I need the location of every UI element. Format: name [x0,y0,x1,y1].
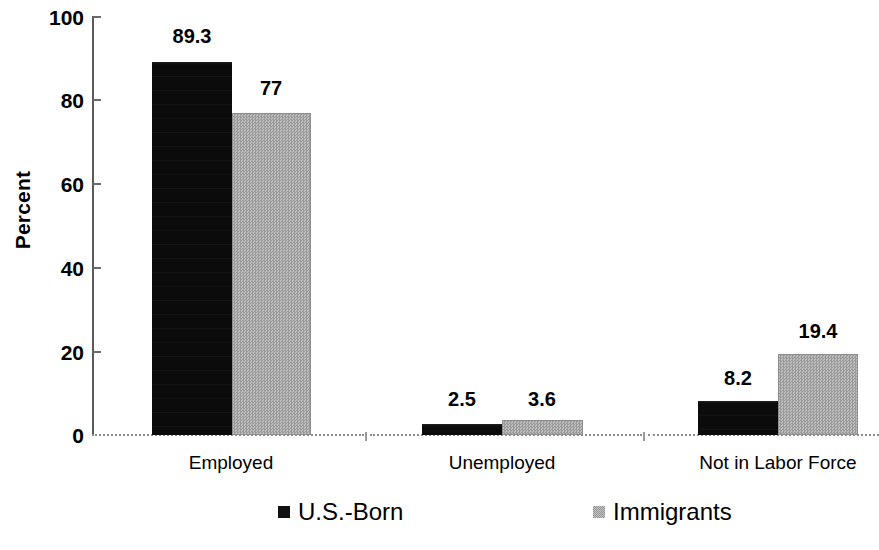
x-axis-tick-divider-2 [643,432,645,441]
y-tick-label-20: 20 [26,342,84,363]
chart-legend: U.S.-Born Immigrants [0,500,879,550]
y-tick-label-80: 80 [26,90,84,111]
y-tick-mark-20 [93,351,101,353]
bar-employed-immigrants [232,113,311,435]
y-tick-mark-100 [93,16,101,18]
x-category-label-not-in-labor-force: Not in Labor Force [668,452,879,474]
bar-unemployed-usborn [422,424,502,435]
y-tick-label-60: 60 [26,174,84,195]
y-tick-mark-80 [93,99,101,101]
black-square-icon [278,506,290,518]
bar-value-not-in-labor-force-usborn: 8.2 [688,368,788,388]
bar-value-employed-immigrants: 77 [221,78,321,98]
gray-square-icon [593,506,605,518]
y-axis-line [92,16,94,436]
x-axis-tick-divider-1 [365,432,367,441]
bar-value-unemployed-immigrants: 3.6 [492,389,592,409]
bar-value-not-in-labor-force-immigrants: 19.4 [768,321,868,341]
y-axis-title: Percent [11,145,35,275]
legend-entry-us-born: U.S.-Born [278,500,403,524]
legend-label-us-born: U.S.-Born [298,500,403,524]
y-tick-label-40: 40 [26,258,84,279]
bar-value-employed-usborn: 89.3 [142,26,242,46]
x-category-label-unemployed: Unemployed [402,452,602,474]
y-tick-mark-40 [93,267,101,269]
y-tick-mark-60 [93,183,101,185]
y-tick-label-100: 100 [26,7,84,28]
bar-unemployed-immigrants [502,420,583,435]
legend-label-immigrants: Immigrants [613,500,732,524]
bar-not-in-labor-force-immigrants [778,354,858,435]
bar-not-in-labor-force-usborn [698,401,778,435]
y-tick-label-0: 0 [26,425,84,446]
legend-entry-immigrants: Immigrants [593,500,732,524]
bar-employed-usborn [152,62,232,435]
bar-chart: Percent 100 80 60 40 20 0 89.3 77 Employ… [0,0,879,550]
x-category-label-employed: Employed [131,452,331,474]
